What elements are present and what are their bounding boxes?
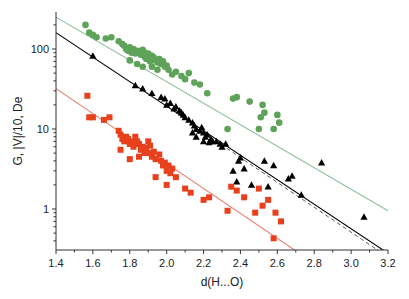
data-point-circle — [103, 35, 110, 42]
data-point-square — [169, 166, 175, 172]
data-point-square — [84, 93, 90, 99]
data-point-square — [156, 152, 162, 158]
data-point-triangle — [270, 162, 277, 168]
fit-lines — [56, 17, 388, 251]
data-point-square — [234, 188, 240, 194]
y-axis-label: G, |V|/10, De — [11, 96, 25, 165]
y-ticks: 110100 — [31, 25, 56, 241]
data-point-square — [101, 117, 107, 123]
data-point-circle — [139, 63, 146, 70]
x-tick-label: 3.2 — [380, 257, 395, 269]
data-point-square — [136, 154, 142, 160]
data-point-square — [272, 210, 278, 216]
data-points — [82, 22, 367, 242]
data-point-triangle — [229, 167, 236, 173]
data-point-square — [201, 197, 207, 203]
x-tick-label: 2.2 — [196, 257, 211, 269]
data-point-square — [206, 194, 212, 200]
data-point-triangle — [248, 181, 255, 187]
data-point-square — [256, 186, 262, 192]
fit-line-0 — [56, 17, 388, 211]
data-point-circle — [173, 68, 180, 75]
data-point-square — [118, 147, 124, 153]
data-point-square — [127, 156, 133, 162]
data-point-triangle — [318, 159, 325, 165]
data-point-square — [265, 197, 271, 203]
data-point-circle — [246, 98, 253, 105]
data-point-circle — [108, 34, 115, 41]
data-point-square — [228, 184, 234, 190]
data-point-circle — [233, 94, 240, 101]
data-point-square — [147, 143, 153, 149]
data-point-square — [173, 174, 179, 180]
data-point-circle — [154, 66, 161, 73]
data-point-square — [164, 182, 170, 188]
x-tick-label: 3.0 — [343, 257, 358, 269]
data-point-square — [252, 210, 258, 216]
chart: 1.41.61.82.02.22.42.62.83.03.2 110100 d(… — [0, 0, 409, 299]
data-point-circle — [256, 126, 263, 133]
data-point-triangle — [265, 183, 272, 189]
x-tick-label: 2.6 — [270, 257, 285, 269]
data-point-triangle — [148, 90, 155, 96]
data-point-square — [153, 174, 159, 180]
data-point-triangle — [261, 157, 268, 163]
data-point-square — [241, 194, 247, 200]
data-point-circle — [276, 119, 283, 126]
data-point-circle — [93, 34, 100, 41]
data-point-circle — [274, 112, 281, 119]
data-point-square — [182, 186, 188, 192]
data-point-triangle — [241, 165, 248, 171]
data-point-square — [106, 114, 112, 120]
data-point-square — [90, 114, 96, 120]
x-tick-label: 2.0 — [159, 257, 174, 269]
data-point-circle — [149, 63, 156, 70]
x-tick-label: 1.4 — [48, 257, 63, 269]
data-point-triangle — [233, 178, 240, 184]
data-point-square — [271, 235, 277, 241]
data-point-circle — [197, 81, 204, 88]
x-axis-label: d(H...O) — [201, 275, 244, 289]
data-point-circle — [82, 22, 89, 29]
data-point-circle — [182, 76, 189, 83]
y-tick-label: 1 — [43, 203, 49, 215]
data-point-circle — [204, 90, 211, 97]
data-point-square — [260, 203, 266, 209]
x-tick-label: 2.8 — [307, 257, 322, 269]
data-point-square — [188, 190, 194, 196]
data-point-circle — [224, 126, 231, 133]
x-ticks: 1.41.61.82.02.22.42.62.83.03.2 — [48, 250, 395, 269]
data-point-square — [151, 149, 157, 155]
data-point-triangle — [360, 213, 367, 219]
data-point-circle — [257, 114, 264, 121]
data-point-square — [130, 144, 136, 150]
x-tick-label: 2.4 — [233, 257, 248, 269]
data-point-square — [278, 218, 284, 224]
data-point-circle — [270, 126, 277, 133]
data-point-triangle — [198, 124, 205, 130]
data-point-circle — [186, 70, 193, 77]
data-point-circle — [259, 102, 266, 109]
series-triangle — [89, 52, 367, 219]
axes — [56, 12, 388, 250]
data-point-triangle — [132, 82, 139, 88]
x-tick-label: 1.6 — [85, 257, 100, 269]
data-point-circle — [126, 57, 133, 64]
x-tick-label: 1.8 — [122, 257, 137, 269]
y-tick-label: 10 — [37, 123, 49, 135]
y-tick-label: 100 — [31, 43, 49, 55]
data-point-square — [225, 208, 231, 214]
fit-line-2 — [204, 133, 379, 251]
